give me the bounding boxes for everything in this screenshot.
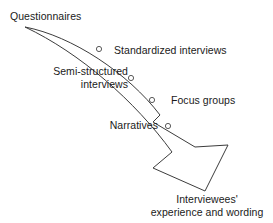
marker-narratives	[165, 123, 170, 128]
label-focus-groups: Focus groups	[171, 94, 235, 107]
label-semi-structured-interviews: Semi-structured interviews	[18, 65, 128, 90]
label-narratives: Narratives	[94, 119, 158, 132]
marker-focus-groups	[149, 97, 154, 102]
curved-arrow-graphic	[0, 0, 273, 223]
diagram-figure: Questionnaires Standardized interviews S…	[0, 0, 273, 223]
label-questionnaires: Questionnaires	[10, 10, 81, 23]
label-standardized-interviews: Standardized interviews	[114, 44, 227, 57]
label-outcome-interviewees-experience: Interviewees' experience and wording	[145, 193, 269, 218]
marker-standardized-interviews	[96, 46, 101, 51]
marker-semi-structured-interviews	[128, 75, 133, 80]
